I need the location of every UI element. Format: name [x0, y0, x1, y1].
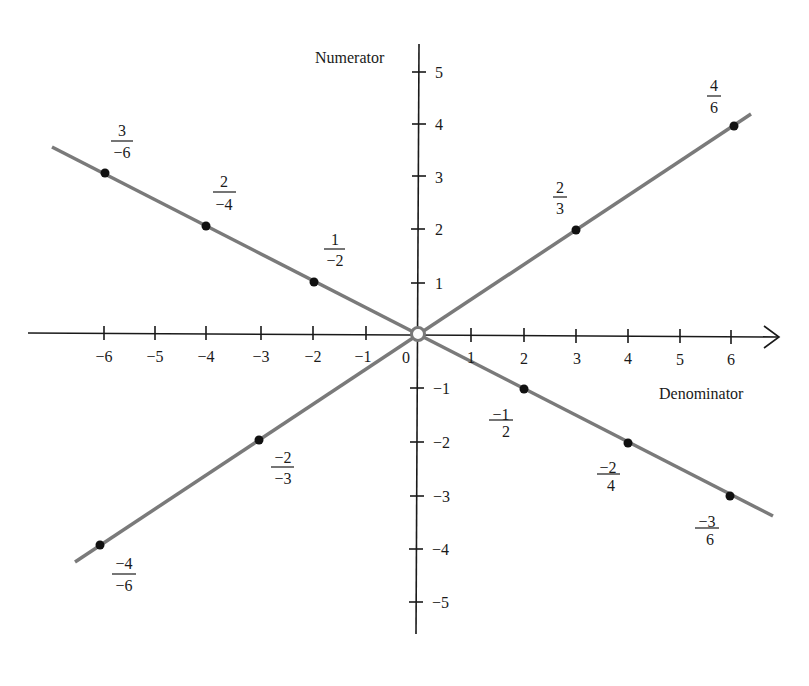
y-tick-label: 3 — [435, 169, 443, 186]
fraction-label: 2 3 — [553, 179, 567, 217]
fraction-label: −2 4 — [597, 459, 620, 494]
svg-text:−6: −6 — [115, 577, 132, 594]
point-m2-1 — [310, 278, 319, 287]
x-tick-label: −3 — [252, 348, 269, 365]
svg-text:2: 2 — [502, 423, 510, 440]
y-tick-label: −3 — [433, 488, 450, 505]
x-tick-label: 4 — [624, 350, 632, 367]
point-6-4 — [730, 122, 739, 131]
y-tick-label: −2 — [433, 434, 450, 451]
svg-text:2: 2 — [220, 173, 228, 190]
point-m6-m4 — [96, 541, 105, 550]
svg-text:−3: −3 — [274, 470, 291, 487]
x-tick-label: 5 — [676, 351, 684, 368]
svg-text:−4: −4 — [115, 555, 132, 572]
fraction-label: 1 −2 — [324, 231, 345, 269]
svg-text:−6: −6 — [113, 144, 130, 161]
y-axis-title: Numerator — [315, 49, 385, 66]
y-tick-label: −4 — [432, 541, 449, 558]
x-tick-label: 0 — [402, 349, 410, 366]
svg-text:4: 4 — [607, 477, 615, 494]
x-tick-label: −2 — [304, 348, 321, 365]
fraction-label: 4 6 — [707, 77, 721, 116]
fraction-label: −4 −6 — [112, 555, 136, 594]
point-m3-m2 — [255, 436, 264, 445]
svg-text:4: 4 — [710, 77, 718, 94]
x-tick-label: 1 — [467, 349, 475, 366]
svg-text:3: 3 — [118, 122, 126, 139]
y-tick-label: 5 — [435, 64, 443, 81]
point-3-2 — [572, 226, 581, 235]
point-m6-3 — [101, 169, 110, 178]
fraction-label: 3 −6 — [111, 122, 133, 161]
x-tick-label: −1 — [354, 348, 371, 365]
y-tick-label: −1 — [433, 380, 450, 397]
point-2-m1 — [520, 385, 529, 394]
svg-text:1: 1 — [331, 231, 339, 248]
svg-text:3: 3 — [556, 200, 564, 217]
origin-open-circle — [412, 328, 425, 341]
svg-text:−2: −2 — [274, 449, 291, 466]
y-tick-label: 1 — [435, 275, 443, 292]
x-tick-label: −6 — [95, 348, 112, 365]
svg-text:6: 6 — [706, 531, 714, 548]
fraction-label: −3 6 — [695, 513, 719, 548]
svg-text:6: 6 — [710, 99, 718, 116]
y-tick-label: −5 — [432, 594, 449, 611]
x-axis-title: Denominator — [659, 385, 744, 402]
svg-text:2: 2 — [556, 179, 564, 196]
fraction-label: −1 2 — [489, 406, 513, 440]
svg-text:−2: −2 — [326, 252, 343, 269]
x-tick-label: 6 — [727, 351, 735, 368]
x-tick-label: −5 — [146, 348, 163, 365]
point-6-m3 — [726, 492, 735, 501]
y-tick-label: 4 — [435, 116, 443, 133]
coordinate-diagram: −6 −5 −4 −3 −2 −1 0 1 2 3 4 5 6 Denomina… — [0, 0, 809, 686]
x-axis: −6 −5 −4 −3 −2 −1 0 1 2 3 4 5 6 Denomina… — [28, 326, 779, 402]
fraction-label: −2 −3 — [271, 449, 294, 487]
x-tick-label: 3 — [573, 350, 581, 367]
x-tick-label: 2 — [520, 350, 528, 367]
x-tick-label: −4 — [197, 348, 214, 365]
point-4-m2 — [624, 439, 633, 448]
point-m4-2 — [202, 222, 211, 231]
svg-text:−4: −4 — [215, 196, 232, 213]
y-tick-label: 2 — [435, 221, 443, 238]
fraction-label: 2 −4 — [213, 173, 236, 213]
